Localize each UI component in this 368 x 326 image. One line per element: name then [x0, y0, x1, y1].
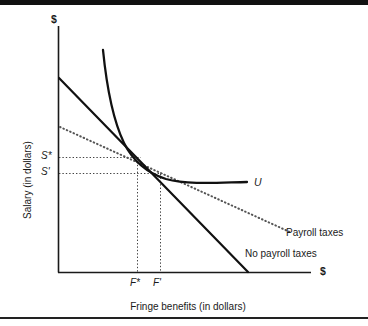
x-tick-label-f-prime: F' [153, 278, 161, 288]
indifference-curve-u [103, 50, 247, 183]
x-axis-title: Fringe benefits (in dollars) [88, 302, 288, 312]
y-axis-title: Salary (in dollars) [23, 120, 33, 240]
curve-label-u: U [254, 177, 262, 188]
economics-figure: $ $ Salary (in dollars) Fringe benefits … [0, 0, 368, 326]
bottom-divider-rule [0, 317, 368, 319]
x-axis-dollar-symbol: $ [320, 266, 326, 277]
plot-canvas [0, 0, 368, 326]
curve-label-payroll-taxes: Payroll taxes [286, 228, 343, 238]
curve-label-no-payroll-taxes: No payroll taxes [245, 249, 317, 259]
y-tick-label-s-prime: S' [41, 167, 50, 177]
x-tick-label-f-star: F* [130, 278, 140, 288]
y-tick-label-s-star: S* [41, 151, 52, 161]
y-axis-dollar-symbol: $ [51, 14, 57, 25]
